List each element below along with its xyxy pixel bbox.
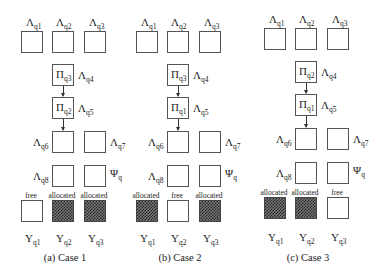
lambda-q3-box [327,28,349,50]
lambda-q4-label: Λq4 [78,70,93,85]
y-q3-label: Yq3 [331,232,346,247]
slot-2-status: free [160,192,194,200]
y-q1-slot-box [264,197,286,219]
lambda-q1-box [21,31,43,53]
lambda-q1-label: Λq1 [26,17,41,32]
lambda-q1-box [264,28,286,50]
psi-q-box [199,165,221,187]
slot-2-status: allocated [288,189,322,197]
pi-box-1: Πq3 [167,64,189,86]
case-caption: (c) Case 3 [243,252,373,263]
lambda-q8-label: Λq8 [276,168,291,183]
slot-3-status: allocated [77,192,111,200]
y-q1-slot-box [136,200,158,222]
lambda-q6-label: Λq6 [33,137,48,152]
arrow-down-icon [306,83,307,93]
psi-q-label: Ψq [225,168,237,183]
slot-1-status: allocated [257,189,291,197]
lambda-q6-label: Λq6 [276,134,291,149]
y-q2-slot-box [295,197,317,219]
lambda-q4-label: Λq4 [193,70,208,85]
lambda-q7-box [84,131,106,153]
lambda-q7-box [199,131,221,153]
y-q3-slot-box [84,200,106,222]
y-q1-label: Yq1 [268,232,283,247]
lambda-q6-box [52,131,74,153]
pi-box-1: Πq3 [52,64,74,86]
lambda-q3-label: Λq3 [332,14,347,29]
psi-q-label: Ψq [353,165,365,180]
lambda-q1-label: Λq1 [269,14,284,29]
arrow-down-icon [178,119,179,130]
lambda-q5-label: Λq5 [193,103,208,118]
case-caption: (b) Case 2 [115,252,245,263]
y-q1-slot-box [21,200,43,222]
y-q2-label: Yq2 [171,233,186,248]
lambda-q3-box [199,31,221,53]
arrow-down-icon [63,119,64,130]
y-q1-label: Yq1 [140,233,155,248]
slot-3-status: allocated [192,192,226,200]
pi-label-2: Πq2 [56,102,71,117]
slot-3-status: free [320,189,354,197]
lambda-q8-box [52,165,74,187]
psi-q-box [327,162,349,184]
y-q1-label: Yq1 [25,233,40,248]
pi-label-1: Πq3 [56,69,71,84]
arrow-down-icon [178,86,179,96]
case-2-panel: Λq1 Λq2 Λq3 Πq3 Λq4 Πq1 Λq5 Λq6 Λq7 Λq8 … [115,0,245,279]
y-q2-slot-box [167,200,189,222]
lambda-q5-label: Λq5 [321,100,336,115]
lambda-q6-label: Λq6 [148,137,163,152]
lambda-q2-box [167,31,189,53]
pi-label-2: Πq1 [299,99,314,114]
lambda-q1-box [136,31,158,53]
lambda-q8-label: Λq8 [33,171,48,186]
lambda-q6-box [295,128,317,150]
slot-1-status: free [14,192,48,200]
y-q3-label: Yq3 [203,233,218,248]
pi-box-2: Πq1 [167,97,189,119]
lambda-q7-box [327,128,349,150]
case-1-panel: Λq1 Λq2 Λq3 Πq3 Λq4 Πq2 Λq5 Λq6 Λq7 Λq8 … [0,0,130,279]
y-q2-label: Yq2 [56,233,71,248]
case-3-panel: Λq1 Λq2 Λq3 Πq2 Λq4 Πq1 Λq5 Λq6 Λq7 Λq8 … [243,0,373,276]
arrow-down-icon [63,86,64,96]
lambda-q2-label: Λq2 [171,17,186,32]
slot-1-status: allocated [129,192,163,200]
pi-label-2: Πq1 [171,102,186,117]
lambda-q2-label: Λq2 [299,14,314,29]
lambda-q3-label: Λq3 [204,17,219,32]
lambda-q3-label: Λq3 [89,17,104,32]
lambda-q8-box [295,162,317,184]
lambda-q8-label: Λq8 [148,171,163,186]
slot-2-status: allocated [45,192,79,200]
psi-q-box [84,165,106,187]
pi-box-2: Πq2 [52,97,74,119]
y-q3-slot-box [327,197,349,219]
lambda-q2-box [52,31,74,53]
pi-label-1: Πq3 [171,69,186,84]
arrow-down-icon [306,116,307,127]
lambda-q8-box [167,165,189,187]
lambda-q6-box [167,131,189,153]
lambda-q5-label: Λq5 [78,103,93,118]
lambda-q2-label: Λq2 [56,17,71,32]
y-q3-label: Yq3 [88,233,103,248]
y-q3-slot-box [199,200,221,222]
lambda-q2-box [295,28,317,50]
pi-box-1: Πq2 [295,61,317,83]
y-q2-slot-box [52,200,74,222]
lambda-q1-label: Λq1 [141,17,156,32]
lambda-q4-label: Λq4 [321,67,336,82]
lambda-q7-label: Λq7 [353,134,368,149]
y-q2-label: Yq2 [299,232,314,247]
lambda-q7-label: Λq7 [225,137,240,152]
lambda-q3-box [84,31,106,53]
pi-box-2: Πq1 [295,94,317,116]
pi-label-1: Πq2 [299,66,314,81]
case-caption: (a) Case 1 [0,252,130,263]
